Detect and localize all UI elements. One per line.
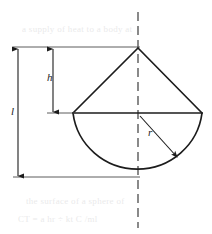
geometry-figure — [0, 0, 212, 234]
label-radius: r — [148, 127, 152, 138]
radius-leader-line — [140, 116, 177, 157]
label-cone-height: h — [47, 72, 53, 83]
cone-left-slant — [73, 48, 138, 113]
cone-right-slant — [138, 48, 202, 113]
label-total-length: l — [11, 106, 14, 117]
